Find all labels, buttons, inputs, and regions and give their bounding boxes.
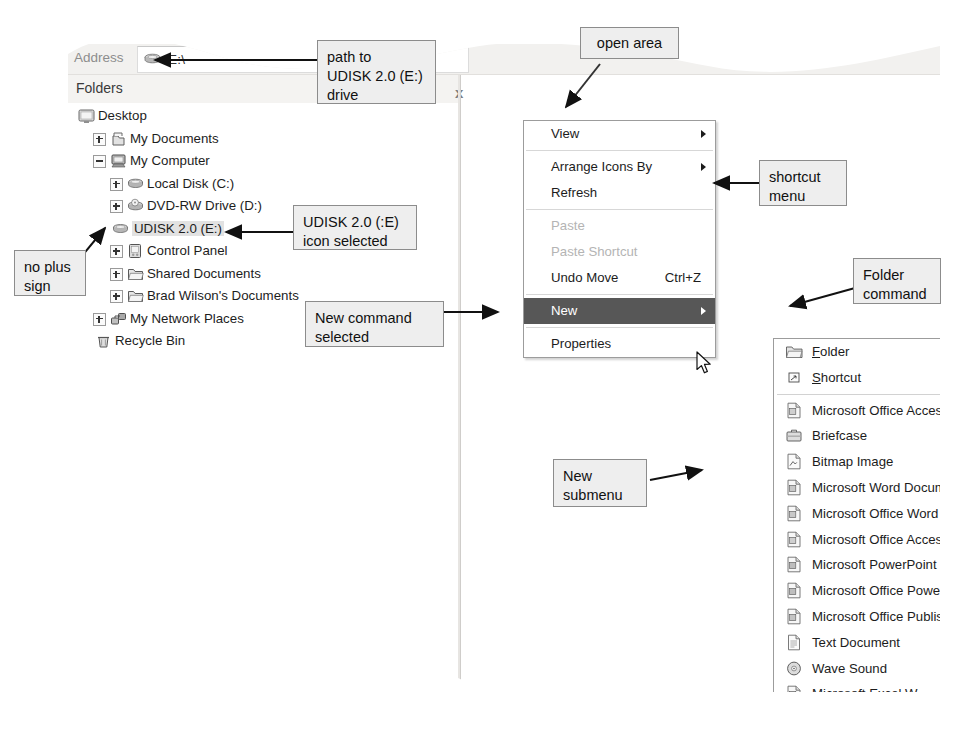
tree-item-label: Brad Wilson's Documents bbox=[147, 288, 299, 303]
menu-item-label: View bbox=[551, 126, 579, 141]
new-submenu-item-microsoft-office-powerpoint-2007-pr[interactable]: Microsoft Office PowerPoint 2007 Pr bbox=[774, 578, 940, 604]
menu-item-properties[interactable]: Properties bbox=[524, 331, 715, 357]
usb-drive-icon bbox=[144, 53, 161, 65]
new-submenu-item-briefcase[interactable]: Briefcase bbox=[774, 423, 940, 449]
tree-item-label: DVD-RW Drive (D:) bbox=[147, 198, 262, 213]
menu-item-label: Arrange Icons By bbox=[551, 159, 652, 174]
new-submenu-item-microsoft-office-access-application[interactable]: Microsoft Office Access Application bbox=[774, 527, 940, 553]
tree-item-label: UDISK 2.0 (E:) bbox=[132, 221, 224, 236]
submenu-arrow-icon bbox=[701, 130, 706, 138]
expand-plus-icon[interactable] bbox=[110, 200, 123, 213]
folders-pane: Folders DesktopMy DocumentsMy ComputerLo… bbox=[68, 75, 458, 692]
tree-item-label: Control Panel bbox=[147, 243, 228, 258]
new-submenu-item-wave-sound[interactable]: Wave Sound bbox=[774, 656, 940, 682]
network-icon bbox=[110, 311, 127, 327]
menu-item-label: New bbox=[551, 303, 577, 318]
tree-item-my-documents[interactable]: My Documents bbox=[68, 128, 458, 151]
expand-plus-icon[interactable] bbox=[93, 313, 106, 326]
word2007-icon bbox=[785, 505, 803, 522]
expand-plus-icon[interactable] bbox=[93, 133, 106, 146]
my-computer-icon bbox=[110, 153, 127, 169]
hard-disk-icon bbox=[127, 176, 144, 192]
new-submenu-item-label: Shortcut bbox=[812, 370, 861, 385]
menu-item-label: Paste Shortcut bbox=[551, 244, 638, 259]
new-submenu[interactable]: FolderShortcutMicrosoft Office Access 12… bbox=[773, 338, 940, 692]
new-submenu-item-microsoft-excel-worksheet[interactable]: Microsoft Excel Worksheet bbox=[774, 681, 940, 692]
submenu-separator bbox=[777, 394, 940, 395]
collapse-minus-icon[interactable] bbox=[93, 155, 106, 168]
menu-separator bbox=[526, 150, 713, 151]
menu-separator bbox=[526, 209, 713, 210]
tree-item-local-disk-c[interactable]: Local Disk (C:) bbox=[68, 173, 458, 196]
callout-no-plus-sign: no plussign bbox=[14, 250, 86, 296]
new-submenu-item-label: Microsoft Office PowerPoint 2007 Pr bbox=[812, 583, 940, 598]
new-submenu-item-label: Microsoft PowerPoint Presentation bbox=[812, 557, 940, 572]
new-submenu-item-label: Microsoft Office Word 2007 Document bbox=[812, 506, 940, 521]
new-submenu-item-text-document[interactable]: Text Document bbox=[774, 630, 940, 656]
my-documents-icon bbox=[110, 131, 127, 147]
bitmap-icon bbox=[785, 453, 803, 470]
access-icon bbox=[785, 402, 803, 419]
tree-item-desktop[interactable]: Desktop bbox=[68, 105, 458, 128]
shortcut-menu[interactable]: ViewArrange Icons ByRefreshPastePaste Sh… bbox=[523, 120, 716, 358]
callout-new-command-selected: New commandselected bbox=[305, 301, 444, 347]
expand-plus-icon[interactable] bbox=[110, 290, 123, 303]
submenu-arrow-icon bbox=[701, 163, 706, 171]
new-submenu-item-bitmap-image[interactable]: Bitmap Image bbox=[774, 449, 940, 475]
desktop-icon bbox=[78, 108, 95, 124]
new-submenu-item-label: Microsoft Office Publisher Document bbox=[812, 609, 940, 624]
new-submenu-item-label: Wave Sound bbox=[812, 661, 887, 676]
excel-icon bbox=[785, 685, 803, 692]
folder-icon bbox=[785, 343, 803, 360]
menu-item-new[interactable]: New bbox=[524, 298, 715, 324]
menu-item-arrange-icons-by[interactable]: Arrange Icons By bbox=[524, 154, 715, 180]
expand-plus-icon[interactable] bbox=[110, 268, 123, 281]
new-submenu-item-folder[interactable]: Folder bbox=[774, 339, 940, 365]
menu-separator bbox=[526, 294, 713, 295]
pane-splitter[interactable] bbox=[458, 75, 461, 692]
menu-item-paste-shortcut: Paste Shortcut bbox=[524, 239, 715, 265]
new-submenu-item-label: Microsoft Office Access 12 (Beta) bbox=[812, 403, 940, 418]
text-file-icon bbox=[785, 634, 803, 651]
briefcase-icon bbox=[785, 427, 803, 444]
word-icon bbox=[785, 479, 803, 496]
tree-item-shared-documents[interactable]: Shared Documents bbox=[68, 263, 458, 286]
menu-item-accelerator: Ctrl+Z bbox=[665, 265, 701, 291]
usb-drive-icon bbox=[112, 221, 129, 237]
tree-item-label: Desktop bbox=[98, 108, 147, 123]
new-submenu-item-microsoft-office-access-12-beta[interactable]: Microsoft Office Access 12 (Beta) bbox=[774, 398, 940, 424]
menu-separator bbox=[526, 327, 713, 328]
tree-item-label: Shared Documents bbox=[147, 266, 261, 281]
menu-item-paste: Paste bbox=[524, 213, 715, 239]
submenu-arrow-icon bbox=[701, 307, 706, 315]
new-submenu-item-microsoft-office-publisher-document[interactable]: Microsoft Office Publisher Document bbox=[774, 604, 940, 630]
expand-plus-icon[interactable] bbox=[110, 245, 123, 258]
menu-item-label: Paste bbox=[551, 218, 585, 233]
control-panel-icon bbox=[127, 243, 144, 259]
figure-canvas: Address E:\ Folders DesktopMy DocumentsM… bbox=[0, 0, 965, 733]
new-submenu-item-label: Microsoft Excel Worksheet bbox=[812, 686, 940, 692]
tree-item-label: My Computer bbox=[130, 153, 210, 168]
wave-sound-icon bbox=[785, 660, 803, 677]
new-submenu-item-shortcut[interactable]: Shortcut bbox=[774, 365, 940, 391]
menu-item-refresh[interactable]: Refresh bbox=[524, 180, 715, 206]
expand-plus-icon[interactable] bbox=[110, 178, 123, 191]
menu-item-undo-move[interactable]: Undo MoveCtrl+Z bbox=[524, 265, 715, 291]
new-submenu-item-microsoft-office-word-2007-document[interactable]: Microsoft Office Word 2007 Document bbox=[774, 501, 940, 527]
publisher-icon bbox=[785, 608, 803, 625]
menu-item-label: Refresh bbox=[551, 185, 597, 200]
menu-item-label: Undo Move bbox=[551, 270, 618, 285]
new-submenu-item-microsoft-word-document[interactable]: Microsoft Word Document bbox=[774, 475, 940, 501]
new-submenu-item-label: Text Document bbox=[812, 635, 900, 650]
folders-pane-title: Folders bbox=[76, 80, 123, 96]
callout-new-submenu: Newsubmenu bbox=[553, 459, 647, 507]
address-value: E:\ bbox=[168, 52, 185, 67]
access-icon bbox=[785, 531, 803, 548]
tree-item-label: Recycle Bin bbox=[115, 333, 185, 348]
new-submenu-item-label: Microsoft Word Document bbox=[812, 480, 940, 495]
new-submenu-item-microsoft-powerpoint-presentation[interactable]: Microsoft PowerPoint Presentation bbox=[774, 552, 940, 578]
tree-item-label: Local Disk (C:) bbox=[147, 176, 234, 191]
tree-item-my-computer[interactable]: My Computer bbox=[68, 150, 458, 173]
menu-item-view[interactable]: View bbox=[524, 121, 715, 147]
callout-open-area: open area bbox=[580, 27, 679, 59]
